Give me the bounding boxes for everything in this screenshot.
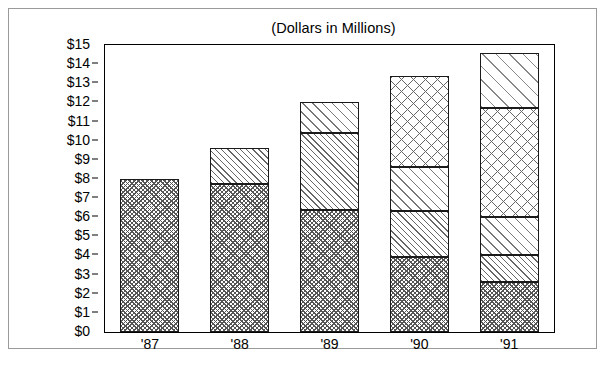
y-tick-mark — [92, 235, 98, 236]
y-tick-mark — [92, 273, 98, 274]
y-tick-mark — [92, 254, 98, 255]
bar-segment — [480, 282, 539, 332]
y-tick-label: $4 — [74, 246, 90, 262]
y-tick-mark — [92, 311, 98, 312]
plot-area — [104, 44, 555, 333]
bar-segment — [390, 76, 449, 168]
chart-title: (Dollars in Millions) — [0, 20, 607, 36]
bar-y87 — [120, 45, 179, 332]
bar-segment — [300, 102, 359, 133]
bar-segment — [390, 211, 449, 257]
chart-screenshot: (Dollars in Millions) $0$1$2$3$4$5$6$7$8… — [0, 0, 607, 373]
bar-segment — [480, 53, 539, 108]
y-tick-label: $9 — [74, 151, 90, 167]
y-tick-mark — [92, 139, 98, 140]
y-tick-label: $12 — [67, 93, 90, 109]
y-tick-mark — [92, 101, 98, 102]
y-tick-label: $8 — [74, 170, 90, 186]
bar-segment — [480, 217, 539, 255]
x-tick-label: '87 — [141, 336, 159, 352]
y-tick-mark — [92, 158, 98, 159]
bar-y89 — [300, 45, 359, 332]
bar-segment — [120, 179, 179, 332]
y-tick-label: $6 — [74, 208, 90, 224]
bar-segment — [300, 133, 359, 210]
x-tick-label: '91 — [500, 336, 518, 352]
y-tick-mark — [92, 216, 98, 217]
y-tick-label: $1 — [74, 304, 90, 320]
y-tick-mark — [92, 292, 98, 293]
y-tick-label: $13 — [67, 74, 90, 90]
y-tick-mark — [92, 82, 98, 83]
y-tick-mark — [92, 63, 98, 64]
x-axis: '87'88'89'90'91 — [104, 334, 555, 358]
y-tick-label: $10 — [67, 132, 90, 148]
bar-segment — [210, 184, 269, 332]
y-tick-mark — [92, 197, 98, 198]
y-axis: $0$1$2$3$4$5$6$7$8$9$10$11$12$13$14$15 — [40, 44, 98, 331]
bar-segment — [210, 148, 269, 183]
y-tick-mark — [92, 177, 98, 178]
y-tick-label: $3 — [74, 266, 90, 282]
bar-segment — [300, 210, 359, 332]
x-tick-label: '90 — [410, 336, 428, 352]
y-tick-label: $5 — [74, 227, 90, 243]
bar-y91 — [480, 45, 539, 332]
bar-y88 — [210, 45, 269, 332]
y-tick-label: $15 — [67, 36, 90, 52]
x-tick-label: '88 — [231, 336, 249, 352]
bar-segment — [480, 108, 539, 217]
y-tick-label: $11 — [68, 113, 90, 129]
y-tick-label: $7 — [74, 189, 90, 205]
x-tick-label: '89 — [320, 336, 338, 352]
y-tick-mark — [92, 120, 98, 121]
y-tick-label: $14 — [67, 55, 90, 71]
bar-segment — [390, 167, 449, 211]
bar-segment — [480, 255, 539, 282]
y-tick-label: $0 — [74, 323, 90, 339]
y-tick-label: $2 — [74, 285, 90, 301]
bar-y90 — [390, 45, 449, 332]
bar-segment — [390, 257, 449, 332]
